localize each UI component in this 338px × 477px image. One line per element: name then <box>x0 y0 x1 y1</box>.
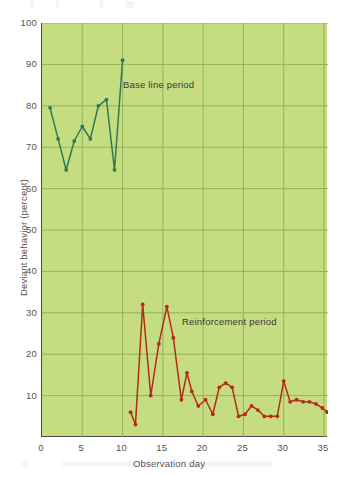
x-tick-label-20: 20 <box>190 443 214 453</box>
x-axis-tick-labels: 05101520253035 <box>0 0 338 477</box>
x-tick-label-25: 25 <box>230 443 254 453</box>
x-tick-label-10: 10 <box>110 443 134 453</box>
chart-figure: 102030405060708090100 05101520253035 Obs… <box>0 0 338 477</box>
x-axis-title: Observation day <box>0 458 338 469</box>
x-tick-label-35: 35 <box>311 443 335 453</box>
x-tick-label-30: 30 <box>271 443 295 453</box>
x-tick-label-5: 5 <box>69 443 93 453</box>
annotation-reinforcement-period: Reinforcement period <box>182 316 277 327</box>
x-tick-label-0: 0 <box>29 443 53 453</box>
x-tick-label-15: 15 <box>150 443 174 453</box>
annotation-base-line-period: Base line period <box>123 79 194 90</box>
y-axis-title: Deviant behavior (percent) <box>18 158 29 318</box>
